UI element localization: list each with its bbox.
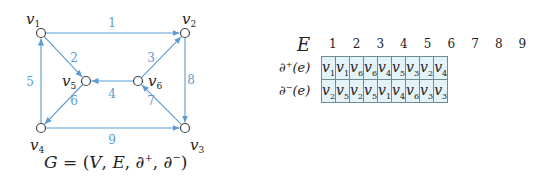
formula-sep3: , ∂ — [153, 152, 173, 172]
node-label: v1 — [26, 10, 40, 29]
column-header: 4 — [392, 37, 416, 51]
node-v2 — [181, 29, 190, 38]
column-header: 3 — [368, 37, 392, 51]
edge-label: 4 — [108, 87, 116, 101]
formula-sep2: , ∂ — [125, 152, 145, 172]
column-header: 8 — [487, 37, 511, 51]
edge-label: 6 — [70, 94, 78, 108]
column-header: 1 — [321, 37, 345, 51]
edge-label: 7 — [147, 94, 155, 108]
edge-label: 9 — [108, 133, 116, 147]
node-v5 — [82, 77, 91, 86]
node-label: v3 — [190, 136, 204, 155]
node-v1 — [37, 29, 46, 38]
table-cell: v3 — [406, 57, 420, 80]
node-label: v2 — [182, 10, 196, 29]
table-cell: v5 — [364, 80, 378, 103]
partial-symbol: ∂ — [279, 60, 286, 75]
node-label: v4 — [30, 136, 44, 155]
column-header: 6 — [440, 37, 464, 51]
formula-g: G — [44, 152, 58, 172]
graph-formula: G = (V, E, ∂+, ∂−) — [44, 152, 187, 172]
row-target: v2v5v2v5v1v4v6v3v3 — [322, 80, 448, 103]
edge-label: 5 — [26, 75, 34, 89]
table-cell: v2 — [322, 80, 336, 103]
table-cell: v4 — [392, 80, 406, 103]
partial-symbol: ∂ — [279, 83, 286, 98]
column-header: 7 — [463, 37, 487, 51]
row-label-source: ∂+(e) — [279, 60, 310, 75]
table-header-symbol: E — [297, 34, 310, 55]
edge-label: 2 — [70, 51, 78, 65]
table-cell: v4 — [434, 57, 448, 80]
table-cell: v5 — [392, 57, 406, 80]
formula-sep1: , — [102, 152, 113, 172]
formula-e: E — [112, 152, 124, 172]
row-label-target: ∂−(e) — [279, 83, 310, 98]
column-header: 2 — [345, 37, 369, 51]
column-header: 5 — [416, 37, 440, 51]
formula-close: ) — [181, 152, 188, 172]
row-arg: (e) — [292, 60, 310, 75]
table-cell: v2 — [420, 57, 434, 80]
table-cell: v6 — [364, 57, 378, 80]
formula-minus: − — [172, 152, 180, 163]
node-v6 — [134, 77, 143, 86]
node-v4 — [37, 124, 46, 133]
row-arg: (e) — [292, 83, 310, 98]
table-cell: v1 — [322, 57, 336, 80]
node-label: v6 — [148, 72, 162, 91]
table-cell: v6 — [350, 57, 364, 80]
table-cell: v1 — [336, 57, 350, 80]
formula-plus: + — [144, 152, 152, 163]
incidence-grid: v1v1v6v6v4v5v3v2v4v2v5v2v5v1v4v6v3v3 — [321, 56, 448, 103]
table-cell: v2 — [350, 80, 364, 103]
table-cell: v4 — [378, 57, 392, 80]
formula-v: V — [89, 152, 101, 172]
table-cell: v5 — [336, 80, 350, 103]
edge-label: 8 — [187, 73, 195, 87]
formula-eq: = ( — [58, 152, 90, 172]
node-v3 — [181, 124, 190, 133]
table-cell: v6 — [406, 80, 420, 103]
column-header: 9 — [511, 37, 535, 51]
node-label: v5 — [62, 72, 76, 91]
row-source: v1v1v6v6v4v5v3v2v4 — [322, 57, 448, 80]
edge-label: 1 — [108, 16, 116, 30]
table-cell: v1 — [378, 80, 392, 103]
table-cell: v3 — [434, 80, 448, 103]
table-cell: v3 — [420, 80, 434, 103]
edge-label: 3 — [147, 51, 155, 65]
